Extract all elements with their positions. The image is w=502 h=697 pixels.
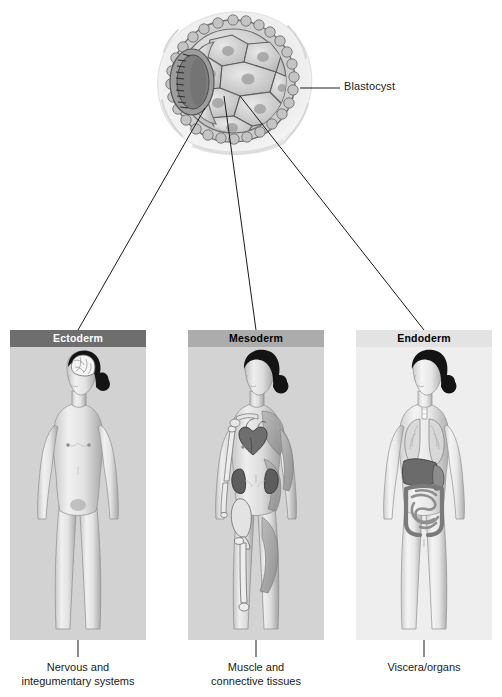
- blastocyst-label: Blastocyst: [344, 80, 395, 92]
- ponytail: [274, 379, 289, 394]
- female-body-nervous-system-icon: [10, 347, 146, 640]
- female-body-muscle-skeletal-system-icon: [188, 347, 324, 640]
- caption-mesoderm-line-2: connective tissues: [161, 674, 351, 688]
- ponytail: [96, 377, 110, 391]
- caption-ectoderm-line-1: Nervous and: [0, 660, 173, 674]
- caption-endoderm: Viscera/organs: [329, 660, 502, 674]
- panel-header-endoderm: Endoderm: [356, 330, 492, 347]
- caption-mesoderm-line-1: Muscle and: [161, 660, 351, 674]
- caption-ectoderm: Nervous and integumentary systems: [0, 660, 173, 688]
- panel-body-endoderm: [356, 347, 492, 640]
- panel-header-ectoderm: Ectoderm: [10, 330, 146, 347]
- panel-body-mesoderm: [188, 347, 324, 640]
- panel-body-ectoderm: [10, 347, 146, 640]
- caption-endoderm-line-1: Viscera/organs: [329, 660, 502, 674]
- germ-layer-diagram: Blastocyst Ectoderm: [0, 0, 502, 697]
- brain-highlight: [71, 355, 95, 376]
- panel-mesoderm: Mesoderm: [188, 330, 324, 640]
- caption-ectoderm-line-2: integumentary systems: [0, 674, 173, 688]
- caption-mesoderm: Muscle and connective tissues: [161, 660, 351, 688]
- blastocyst-illustration: [148, 8, 318, 160]
- panel-header-mesoderm: Mesoderm: [188, 330, 324, 347]
- panel-ectoderm: Ectoderm: [10, 330, 146, 640]
- liver: [403, 459, 438, 486]
- female-body-visceral-organs-icon: [356, 347, 492, 640]
- panel-endoderm: Endoderm: [356, 330, 492, 640]
- ponytail: [442, 379, 457, 394]
